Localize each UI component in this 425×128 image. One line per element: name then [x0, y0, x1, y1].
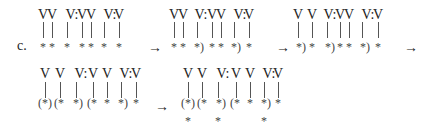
grid-mark: (*: [54, 97, 64, 109]
association-line: [52, 22, 53, 38]
grid-mark: *: [171, 41, 177, 53]
association-line: [43, 22, 44, 38]
v-symbol: V:: [195, 8, 208, 22]
v-symbol: V: [344, 8, 354, 22]
v-symbol: V: [231, 67, 241, 81]
grid-mark: *): [261, 97, 271, 109]
grid-mark: *: [64, 41, 70, 53]
v-symbol: V: [86, 8, 96, 22]
association-line: [82, 22, 83, 38]
right-arrow-icon: →: [148, 41, 162, 55]
grid-mark: *: [116, 41, 122, 53]
association-line: [212, 22, 213, 38]
grid-mark: *: [49, 41, 55, 53]
projected-grid-mark: *: [261, 115, 267, 127]
v-symbol: V: [197, 67, 207, 81]
v-symbol: V: [273, 67, 283, 81]
v-symbol: V: [245, 67, 255, 81]
association-line: [119, 22, 120, 38]
grid-mark: *: [246, 41, 252, 53]
v-symbol: V: [183, 67, 193, 81]
v-symbol: V:: [75, 67, 88, 81]
association-line: [104, 22, 105, 38]
association-line: [197, 22, 198, 38]
grid-mark: (*: [230, 97, 240, 109]
grid-mark: (*): [181, 97, 195, 109]
association-line: [349, 22, 350, 38]
association-line: [221, 22, 222, 38]
association-line: [91, 22, 92, 38]
right-arrow-icon: →: [276, 41, 290, 55]
association-line: [249, 22, 250, 38]
grid-mark: (*: [87, 97, 97, 109]
v-symbol: V: [178, 8, 188, 22]
v-symbol: V: [307, 8, 317, 22]
grid-mark: *: [346, 41, 352, 53]
v-symbol: V: [47, 8, 57, 22]
grid-mark: *): [360, 41, 370, 53]
right-arrow-icon: →: [404, 41, 418, 55]
association-line: [174, 22, 175, 38]
grid-mark: *: [375, 41, 381, 53]
v-symbol: V: [131, 67, 141, 81]
v-symbol: V:: [217, 67, 230, 81]
grid-mark: *: [40, 41, 46, 53]
association-line: [362, 22, 363, 38]
v-symbol: V: [40, 67, 50, 81]
projected-grid-mark: *: [215, 115, 221, 127]
v-symbol: V: [102, 67, 112, 81]
grid-mark: *: [88, 41, 94, 53]
grid-mark: *): [194, 41, 204, 53]
association-line: [298, 22, 299, 38]
projected-grid-mark: *: [185, 115, 191, 127]
panel-label: c.: [17, 38, 27, 54]
grid-mark: *): [231, 41, 241, 53]
grid-mark: *: [180, 41, 186, 53]
grid-mark: *): [118, 97, 128, 109]
grid-mark: (*: [197, 97, 207, 109]
right-arrow-icon: →: [155, 100, 169, 114]
association-line: [378, 22, 379, 38]
association-line: [327, 22, 328, 38]
grid-mark: *: [79, 41, 85, 53]
v-symbol: V: [216, 8, 226, 22]
grid-mark: *): [216, 97, 226, 109]
grid-mark: *: [209, 41, 215, 53]
grid-mark: (*): [38, 97, 52, 109]
grid-mark: *: [275, 97, 281, 109]
grid-mark: *: [133, 97, 139, 109]
v-symbol: V: [114, 8, 124, 22]
association-line: [312, 22, 313, 38]
v-symbol: V: [293, 8, 303, 22]
grid-mark: *): [73, 97, 83, 109]
grid-mark: *: [309, 41, 315, 53]
grid-mark: *): [296, 41, 306, 53]
grid-mark: *: [337, 41, 343, 53]
v-symbol: V: [55, 67, 65, 81]
grid-mark: *: [247, 97, 253, 109]
association-line: [234, 22, 235, 38]
grid-mark: *: [218, 41, 224, 53]
association-line: [183, 22, 184, 38]
grid-mark: *): [325, 41, 335, 53]
grid-mark: *: [101, 41, 107, 53]
v-symbol: V: [373, 8, 383, 22]
v-symbol: V: [244, 8, 254, 22]
v-symbol: V: [88, 67, 98, 81]
association-line: [340, 22, 341, 38]
association-line: [67, 22, 68, 38]
grid-mark: *: [104, 97, 110, 109]
